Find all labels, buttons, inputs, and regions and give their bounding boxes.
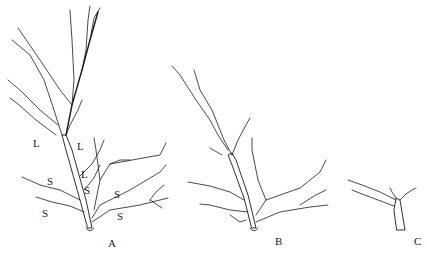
label-s-4: S — [42, 208, 48, 219]
label-l-1: L — [33, 138, 40, 149]
panel-label-c: C — [414, 236, 421, 247]
panel-label-a: A — [108, 238, 116, 249]
label-s-3: S — [114, 189, 120, 200]
branch-drawings — [0, 0, 427, 253]
label-s-1: S — [47, 176, 53, 187]
label-s-2: S — [84, 185, 90, 196]
panel-label-b: B — [275, 236, 282, 247]
pruning-diagram: L L L S S S S S A B C — [0, 0, 427, 253]
label-l-2: L — [77, 141, 84, 152]
label-s-5: S — [117, 211, 123, 222]
tree-b-drawing — [172, 66, 328, 231]
label-l-3: L — [81, 169, 88, 180]
tree-c-drawing — [348, 180, 416, 230]
tree-a-drawing — [8, 6, 168, 231]
